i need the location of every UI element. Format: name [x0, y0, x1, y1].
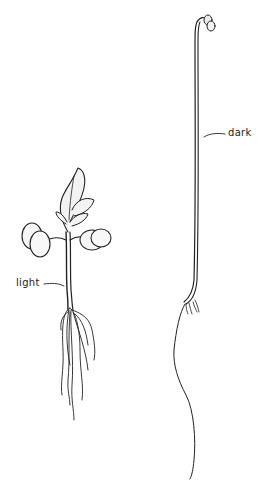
seedlings-drawing	[0, 0, 270, 488]
light-stem	[66, 232, 68, 310]
light-roots	[61, 308, 95, 420]
dark-seedling	[174, 15, 215, 479]
light-label: light	[16, 277, 40, 288]
dark-leader-line	[204, 133, 225, 137]
dark-root	[174, 304, 195, 479]
dark-label: dark	[228, 127, 252, 138]
light-seedling	[22, 168, 111, 420]
light-leader-line	[44, 283, 64, 286]
dark-stem	[184, 22, 197, 302]
